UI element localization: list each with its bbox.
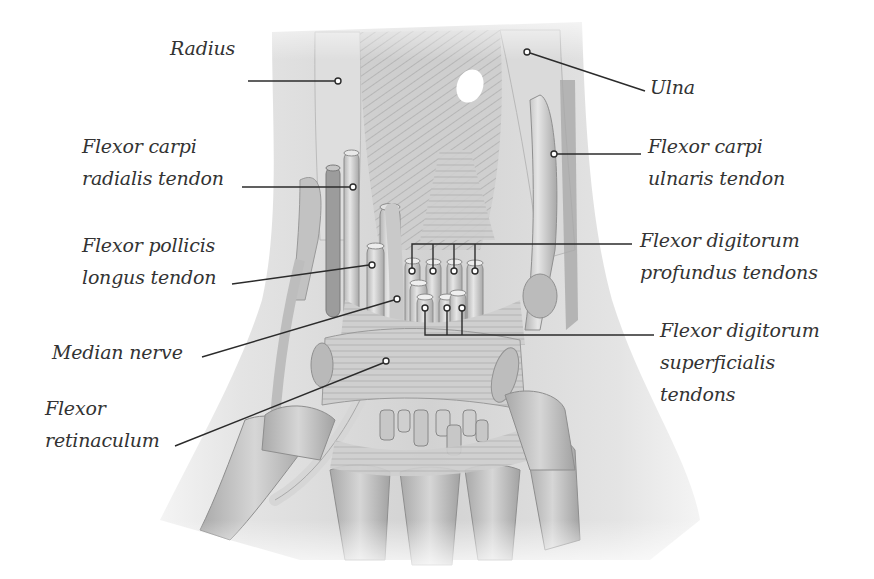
label-flexor-retinaculum: Flexor retinaculum (45, 392, 160, 456)
label-flexor-pollicis-longus: Flexor pollicis longus tendon (82, 229, 216, 293)
fcr-tendon (344, 152, 359, 317)
label-flexor-carpi-ulnaris: Flexor carpi ulnaris tendon (648, 130, 785, 194)
trapezium-bone (311, 343, 333, 387)
label-flexor-digitorum-superficialis: Flexor digitorum superficialis tendons (660, 314, 819, 410)
label-radius: Radius (170, 32, 235, 64)
label-flexor-carpi-radialis: Flexor carpi radialis tendon (82, 130, 224, 194)
median-nerve (392, 210, 397, 335)
anatomy-figure: Radius Ulna Flexor carpi radialis tendon… (0, 0, 874, 579)
pisiform-bone (523, 274, 557, 318)
label-ulna: Ulna (650, 71, 695, 103)
label-flexor-digitorum-profundus: Flexor digitorum profundus tendons (640, 224, 818, 288)
label-median-nerve: Median nerve (52, 336, 183, 368)
